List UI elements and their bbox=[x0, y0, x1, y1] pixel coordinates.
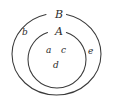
element-e: e bbox=[88, 47, 93, 56]
set-label-b: B bbox=[55, 9, 63, 20]
element-a: a bbox=[46, 46, 51, 55]
set-label-a: A bbox=[55, 26, 63, 37]
euler-diagram-figure: B A b e a c d bbox=[0, 0, 117, 108]
element-c: c bbox=[61, 46, 66, 55]
element-d: d bbox=[53, 61, 59, 70]
element-b: b bbox=[22, 28, 28, 37]
